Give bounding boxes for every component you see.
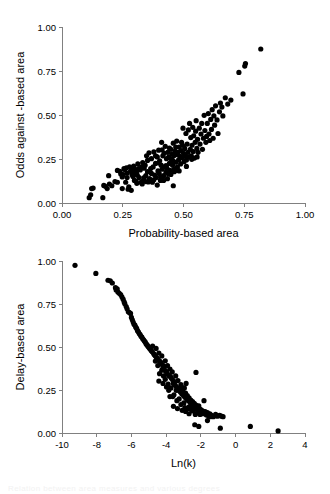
data-point <box>180 143 185 148</box>
data-point <box>174 138 179 143</box>
x-axis-ticks: -10-8-6-4-2024 <box>55 433 308 450</box>
y-tick-label: 0.00 <box>38 198 57 209</box>
data-point <box>165 176 170 181</box>
y-tick-label: 0.25 <box>38 154 57 165</box>
x-axis-title: Probability-based area <box>128 227 239 239</box>
data-point <box>206 111 211 116</box>
chart-panel-bottom: 0.000.250.500.751.00-10-8-6-4-2024Ln(k)D… <box>0 240 330 480</box>
partial-caption-text: Relation between area measures and vario… <box>8 484 322 493</box>
y-tick-label: 0.25 <box>38 385 57 396</box>
data-point <box>129 172 134 177</box>
y-tick-label: 0.75 <box>38 66 57 77</box>
x-tick-label: 0.50 <box>174 209 193 220</box>
data-point <box>140 181 145 186</box>
data-point <box>184 164 189 169</box>
data-point <box>115 180 120 185</box>
data-point <box>194 118 199 123</box>
data-point <box>145 158 150 163</box>
y-tick-label: 0.50 <box>38 110 57 121</box>
data-point <box>258 46 263 51</box>
data-point <box>106 173 111 178</box>
x-tick-label: 1.00 <box>296 209 315 220</box>
data-point <box>88 192 93 197</box>
scatter-plot-odds-vs-probability: 0.000.250.500.751.000.000.250.500.751.00… <box>0 0 330 240</box>
y-tick-label: 0.75 <box>38 299 57 310</box>
data-point <box>220 414 225 419</box>
data-point <box>159 140 164 145</box>
data-point <box>91 185 96 190</box>
x-axis-ticks: 0.000.250.500.751.00 <box>53 203 315 220</box>
data-point <box>93 271 98 276</box>
y-axis-title: Odds against -based area <box>14 51 26 178</box>
data-point <box>197 126 202 131</box>
data-point <box>195 150 200 155</box>
x-tick-label: 2 <box>268 439 273 450</box>
data-point <box>193 370 198 375</box>
data-point <box>202 128 207 133</box>
data-point <box>174 388 179 393</box>
data-point <box>212 123 217 128</box>
data-point <box>107 181 112 186</box>
data-point <box>125 175 130 180</box>
data-point <box>153 359 158 364</box>
x-tick-label: -2 <box>197 439 205 450</box>
y-tick-label: 0.50 <box>38 342 57 353</box>
data-point <box>218 426 223 431</box>
data-point <box>196 403 201 408</box>
data-point <box>173 373 178 378</box>
scatter-plot-delay-vs-lnk: 0.000.250.500.751.00-10-8-6-4-2024Ln(k)D… <box>0 240 330 480</box>
data-point <box>199 411 204 416</box>
data-point <box>163 163 168 168</box>
data-point <box>146 150 151 155</box>
data-point <box>213 103 218 108</box>
data-point <box>193 412 198 417</box>
data-point <box>129 188 134 193</box>
data-point <box>211 136 216 141</box>
data-point <box>123 180 128 185</box>
data-point <box>175 406 180 411</box>
data-point <box>173 144 178 149</box>
figure-container: 0.000.250.500.751.000.000.250.500.751.00… <box>0 0 330 494</box>
data-point <box>170 369 175 374</box>
data-point <box>153 346 158 351</box>
data-point <box>163 358 168 363</box>
data-point <box>197 141 202 146</box>
data-point <box>228 97 233 102</box>
data-point <box>134 170 139 175</box>
data-point <box>201 398 206 403</box>
data-point <box>214 117 219 122</box>
data-point <box>243 61 248 66</box>
data-point <box>120 186 125 191</box>
data-point <box>185 141 190 146</box>
data-point <box>120 174 125 179</box>
x-tick-label: -6 <box>127 439 135 450</box>
data-point <box>164 384 169 389</box>
x-tick-label: 0.75 <box>235 209 254 220</box>
y-tick-label: 0.00 <box>38 428 57 439</box>
data-point <box>174 398 179 403</box>
data-points-group <box>72 263 280 434</box>
data-point <box>240 91 245 96</box>
data-point <box>186 127 191 132</box>
data-point <box>223 95 228 100</box>
data-point <box>220 113 225 118</box>
data-point <box>170 158 175 163</box>
x-tick-label: 4 <box>302 439 307 450</box>
data-point <box>195 137 200 142</box>
data-point <box>147 176 152 181</box>
data-point <box>159 353 164 358</box>
x-tick-label: 0.00 <box>53 209 72 220</box>
data-point <box>167 145 172 150</box>
y-tick-label: 1.00 <box>38 22 57 33</box>
data-point <box>72 263 77 268</box>
data-point <box>100 195 105 200</box>
data-point <box>200 147 205 152</box>
data-point <box>142 166 147 171</box>
data-point <box>175 168 180 173</box>
data-point <box>151 177 156 182</box>
data-point <box>171 183 176 188</box>
data-point <box>180 126 185 131</box>
y-tick-label: 1.00 <box>38 256 57 267</box>
data-points-group <box>87 46 264 200</box>
data-point <box>236 70 241 75</box>
